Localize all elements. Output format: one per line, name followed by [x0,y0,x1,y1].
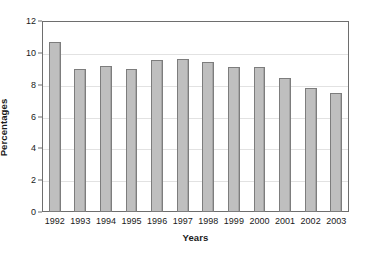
x-tick-label: 2001 [275,216,295,226]
x-tick-label: 1997 [173,216,193,226]
x-axis-ticks: 1992199319941995199619971998199920002001… [42,213,349,229]
bar [49,42,61,212]
x-tick-label: 2000 [249,216,269,226]
bar [254,67,266,212]
bar [279,78,291,213]
bar [177,59,189,212]
bar [100,66,112,212]
y-tick-label: 6 [31,112,36,122]
bar-chart: Percentages 024681012 199219931994199519… [0,0,370,255]
bar [151,60,163,212]
x-tick-label: 1992 [45,216,65,226]
x-tick-label: 2002 [301,216,321,226]
bar [330,93,342,212]
bar [74,69,86,212]
x-tick-label: 1995 [122,216,142,226]
y-tick-label: 8 [31,80,36,90]
y-tick-label: 2 [31,175,36,185]
y-tick-label: 4 [31,143,36,153]
x-tick-label: 2003 [326,216,346,226]
y-tick-label: 12 [26,16,36,26]
y-axis-ticks: 024681012 [0,21,42,212]
x-tick-label: 1993 [70,216,90,226]
x-tick-label: 1994 [96,216,116,226]
y-tick-label: 0 [31,207,36,217]
bar [202,62,214,212]
bar [126,69,138,212]
x-axis-title: Years [42,232,349,243]
x-tick-label: 1996 [147,216,167,226]
x-tick-label: 1999 [224,216,244,226]
bars-layer [42,21,349,212]
bar [228,67,240,212]
x-tick-label: 1998 [198,216,218,226]
bar [305,88,317,212]
y-tick-label: 10 [26,48,36,58]
